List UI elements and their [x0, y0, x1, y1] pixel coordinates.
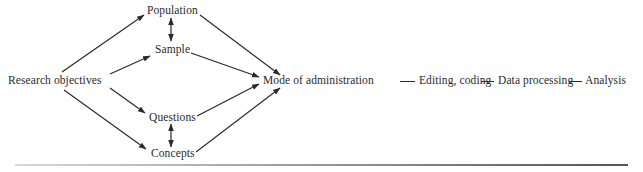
arrow-population-to-mode [200, 15, 280, 75]
node-population: Population [147, 4, 198, 17]
connector-editing-to-processing [481, 81, 494, 82]
node-mode-of-administration: Mode of administration [263, 74, 374, 87]
arrow-sample-to-mode [191, 53, 259, 77]
node-concepts: Concepts [151, 147, 195, 160]
arrow-objectives-to-questions [110, 88, 145, 113]
node-sample: Sample [155, 43, 190, 56]
node-questions: Questions [149, 111, 196, 124]
node-data-processing: Data processing [498, 74, 573, 87]
arrow-objectives-to-sample [110, 56, 150, 74]
arrow-objectives-to-population [62, 15, 144, 72]
bottom-rule [15, 164, 628, 166]
connector-mode-to-editing [400, 81, 415, 82]
arrow-objectives-to-concepts [64, 90, 146, 149]
node-research-objectives: Research objectives [8, 74, 102, 87]
connector-processing-to-analysis [569, 81, 582, 82]
node-analysis: Analysis [585, 74, 626, 87]
survey-process-diagram: Research objectives Population Sample Qu… [0, 0, 643, 172]
arrow-concepts-to-mode [196, 88, 280, 152]
